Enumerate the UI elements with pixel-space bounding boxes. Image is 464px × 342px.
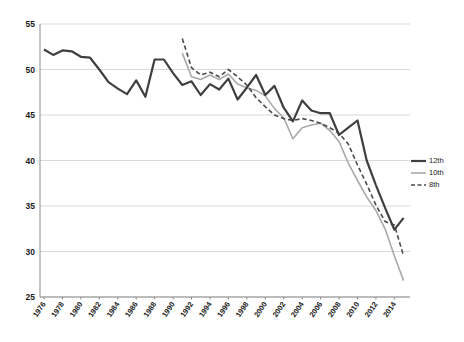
y-axis-tick-label-50: 50 — [26, 65, 36, 75]
y-axis-labels: 25303540455055 — [26, 19, 36, 302]
x-axis-tick-label-1992: 1992 — [178, 300, 195, 319]
chart-legend: 12th 10th 8th — [411, 156, 444, 189]
x-axis-tick-label-1998: 1998 — [234, 300, 251, 319]
x-axis-tick-label-2002: 2002 — [271, 300, 288, 319]
y-axis-tick-label-30: 30 — [26, 247, 36, 257]
x-axis-tick-label-1978: 1978 — [49, 300, 66, 319]
x-axis-tick-label-1996: 1996 — [215, 300, 232, 319]
x-axis-tick-label-2004: 2004 — [289, 299, 306, 319]
legend-item-8th: 8th — [411, 180, 444, 189]
y-axis-tick-label-40: 40 — [26, 156, 36, 166]
x-axis-tick-label-1994: 1994 — [197, 299, 214, 319]
chart-canvas: 2530354045505519761978198019821984198619… — [0, 0, 464, 342]
x-axis-tick-label-2000: 2000 — [252, 300, 269, 319]
x-axis-tick-label-2010: 2010 — [344, 300, 361, 319]
series-line-8th — [182, 39, 403, 256]
y-axis-tick-label-25: 25 — [26, 292, 36, 302]
legend-line-sample-12th — [411, 157, 426, 165]
x-axis-tick-label-1988: 1988 — [142, 300, 159, 319]
x-axis-tick-label-1984: 1984 — [105, 299, 122, 319]
x-axis-tick-label-2014: 2014 — [381, 299, 398, 319]
legend-label-12th: 12th — [429, 156, 444, 165]
legend-item-10th: 10th — [411, 168, 444, 177]
x-axis-tick-label-1990: 1990 — [160, 300, 177, 319]
x-axis-tick-label-2012: 2012 — [363, 300, 380, 319]
legend-line-sample-8th — [411, 181, 426, 189]
y-axis-tick-label-35: 35 — [26, 201, 36, 211]
x-axis-tick-label-1980: 1980 — [68, 300, 85, 319]
legend-item-12th: 12th — [411, 156, 444, 165]
x-axis-tick-label-1982: 1982 — [86, 300, 103, 319]
line-chart-svg: 2530354045505519761978198019821984198619… — [0, 0, 464, 342]
legend-label-8th: 8th — [429, 180, 439, 189]
legend-line-sample-10th — [411, 169, 426, 177]
x-axis-labels: 1976197819801982198419861988199019921994… — [31, 297, 399, 319]
x-axis-tick-label-2008: 2008 — [326, 300, 343, 319]
x-axis-tick-label-1986: 1986 — [123, 300, 140, 319]
x-axis-tick-label-2006: 2006 — [307, 300, 324, 319]
y-axis-tick-label-55: 55 — [26, 19, 36, 29]
legend-label-10th: 10th — [429, 168, 444, 177]
y-axis-tick-label-45: 45 — [26, 110, 36, 120]
x-axis-tick-label-1976: 1976 — [31, 300, 48, 319]
